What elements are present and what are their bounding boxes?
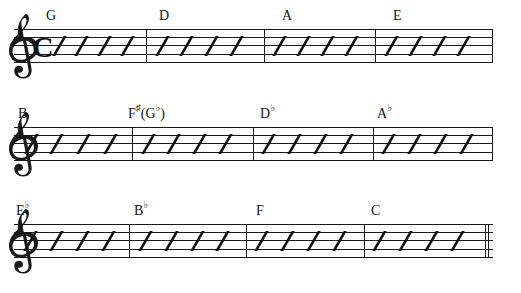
rhythm-slash	[103, 134, 118, 154]
rhythm-slash	[75, 231, 90, 251]
barline	[146, 29, 147, 63]
chord-root: E	[16, 203, 25, 218]
chord-symbol-e: E	[393, 8, 402, 24]
final-barline-line	[488, 224, 489, 258]
rhythm-slash	[74, 36, 89, 56]
staff-line	[14, 45, 493, 46]
chord-alt-open: (G	[141, 106, 156, 121]
rhythm-slash	[424, 231, 439, 251]
rhythm-slash	[456, 36, 471, 56]
flat-accidental-icon: ♭	[156, 102, 161, 113]
chord-alt-close: )	[160, 106, 165, 121]
sharp-accidental-icon: ♯	[136, 102, 141, 113]
rhythm-slash	[272, 36, 287, 56]
chord-symbol-c: C	[371, 203, 380, 219]
rhythm-slash	[52, 36, 67, 56]
barline	[264, 29, 265, 63]
chord-root: E	[393, 8, 402, 23]
rhythm-slash	[218, 134, 233, 154]
staff-lines-3	[14, 224, 493, 258]
rhythm-slash	[407, 134, 422, 154]
staff-lines-1: C	[14, 29, 493, 63]
chord-root: D	[260, 106, 270, 121]
rhythm-slash	[23, 231, 38, 251]
flat-accidental-icon: ♭	[387, 102, 392, 113]
rhythm-slash	[287, 134, 302, 154]
rhythm-slash	[76, 134, 91, 154]
chord-root: D	[159, 8, 169, 23]
rhythm-slash	[384, 36, 399, 56]
rhythm-slash	[179, 36, 194, 56]
chord-symbol-a: A	[282, 8, 292, 24]
barline	[364, 224, 365, 258]
rhythm-slash	[344, 36, 359, 56]
rhythm-slash	[155, 36, 170, 56]
rhythm-slash	[166, 134, 181, 154]
rhythm-slash	[280, 231, 295, 251]
chord-root: A	[377, 106, 387, 121]
rhythm-slash	[204, 36, 219, 56]
chord-root: A	[282, 8, 292, 23]
rhythm-slash	[433, 134, 448, 154]
staff-line	[14, 54, 493, 55]
rhythm-slash	[24, 134, 39, 154]
flat-accidental-icon: ♭	[25, 199, 30, 210]
barline	[373, 127, 374, 161]
rhythm-slash	[49, 134, 64, 154]
chord-root: B	[134, 203, 143, 218]
rhythm-slash	[332, 231, 347, 251]
rhythm-slash	[381, 134, 396, 154]
chord-symbol-dflat: D♭	[260, 106, 275, 122]
rhythm-slash	[261, 134, 276, 154]
rhythm-slash	[254, 231, 269, 251]
chord-root: C	[371, 203, 380, 218]
rhythm-slash	[372, 231, 387, 251]
chord-symbol-b: B	[18, 106, 27, 122]
rhythm-slash	[101, 231, 116, 251]
sheet-music-page: C G D A E	[0, 0, 521, 293]
chord-root: G	[46, 8, 56, 23]
chord-root: F	[256, 203, 264, 218]
rhythm-slash	[339, 134, 354, 154]
rhythm-slash	[229, 36, 244, 56]
rhythm-slash	[164, 231, 179, 251]
rhythm-slash	[432, 36, 447, 56]
barline	[253, 127, 254, 161]
rhythm-slash	[190, 231, 205, 251]
rhythm-slash	[459, 134, 474, 154]
barline	[132, 127, 133, 161]
chord-symbol-eflat: E♭	[16, 203, 29, 219]
rhythm-slash	[49, 231, 64, 251]
rhythm-slash	[97, 36, 112, 56]
chord-symbol-aflat: A♭	[377, 106, 392, 122]
flat-accidental-icon: ♭	[270, 102, 275, 113]
staff-line	[14, 29, 493, 30]
staff-line	[14, 240, 493, 241]
rhythm-slash	[192, 134, 207, 154]
rhythm-slash	[408, 36, 423, 56]
barline	[129, 224, 130, 258]
barline-end	[492, 127, 493, 161]
chord-symbol-fsharp-gflat: F♯(G♭)	[128, 106, 165, 122]
rhythm-slash	[450, 231, 465, 251]
rhythm-slash	[398, 231, 413, 251]
chord-root: B	[18, 106, 27, 121]
rhythm-slash	[141, 134, 156, 154]
barline	[246, 224, 247, 258]
rhythm-slash	[306, 231, 321, 251]
rhythm-slash	[215, 231, 230, 251]
chord-root: F	[128, 106, 136, 121]
time-signature: C	[32, 33, 54, 61]
barline	[375, 29, 376, 63]
chord-symbol-f: F	[256, 203, 264, 219]
staff-line	[14, 224, 493, 225]
rhythm-slash	[313, 134, 328, 154]
rhythm-slash	[120, 36, 135, 56]
chord-symbol-bflat: B♭	[134, 203, 148, 219]
final-barline-line	[485, 224, 486, 258]
staff-line	[14, 257, 493, 258]
chord-symbol-g: G	[46, 8, 56, 24]
barline-end	[492, 29, 493, 63]
chord-symbol-d: D	[159, 8, 169, 24]
staff-line	[14, 62, 493, 63]
